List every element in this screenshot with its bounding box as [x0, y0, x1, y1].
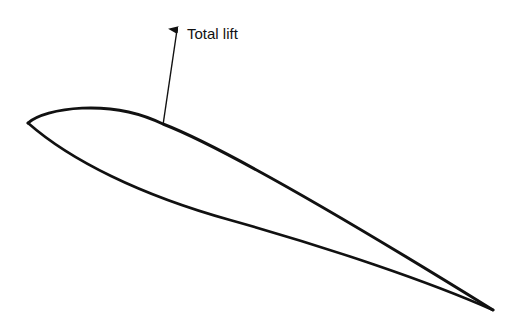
- airfoil-diagram: Total lift: [0, 0, 522, 321]
- airfoil-figure: [0, 0, 522, 321]
- total-lift-label: Total lift: [187, 25, 238, 42]
- lift-vector-arrow: [163, 30, 177, 125]
- airfoil-upper-surface: [28, 108, 493, 310]
- airfoil-lower-surface: [28, 123, 493, 310]
